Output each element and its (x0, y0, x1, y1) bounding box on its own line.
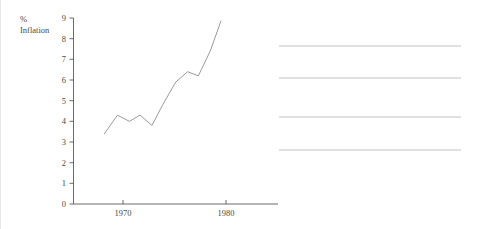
inflation-data-line (104, 21, 221, 134)
y-tick-label-3: 3 (62, 137, 66, 147)
inflation-chart-figure: 9 8 7 6 5 4 3 2 1 0 1970 1980 % Inflatio… (0, 0, 477, 229)
right-horizontal-rules (279, 46, 461, 150)
y-tick-label-1: 1 (62, 178, 66, 188)
y-axis-title-line-2: Inflation (20, 25, 50, 35)
y-tick-label-2: 2 (62, 158, 66, 168)
chart-canvas: 9 8 7 6 5 4 3 2 1 0 1970 1980 % Inflatio… (1, 0, 477, 229)
y-tick-label-4: 4 (62, 116, 67, 126)
y-axis-ticks (70, 18, 74, 204)
y-tick-label-7: 7 (62, 54, 66, 64)
x-tick-label-1980: 1980 (218, 208, 235, 218)
x-axis-tick-labels: 1970 1980 (115, 208, 235, 218)
y-tick-label-8: 8 (62, 34, 66, 44)
y-axis-title-line-1: % (20, 14, 27, 24)
x-tick-label-1970: 1970 (115, 208, 132, 218)
x-axis-ticks (123, 200, 226, 204)
y-axis-tick-labels: 9 8 7 6 5 4 3 2 1 0 (62, 13, 67, 209)
y-tick-label-6: 6 (62, 75, 66, 85)
y-axis-title: % Inflation (20, 14, 50, 35)
y-tick-label-9: 9 (62, 13, 66, 23)
y-tick-label-5: 5 (62, 96, 66, 106)
y-tick-label-0: 0 (62, 199, 66, 209)
